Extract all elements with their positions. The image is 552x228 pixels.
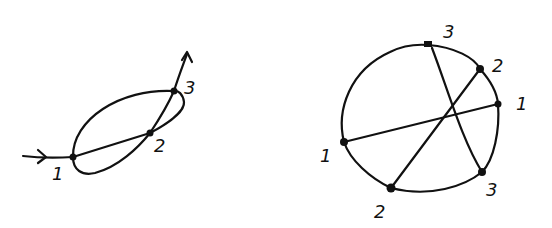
point-left-1 bbox=[340, 138, 348, 146]
point-top-3 bbox=[424, 41, 432, 47]
point-1 bbox=[70, 154, 77, 161]
label-1: 1 bbox=[52, 163, 63, 184]
label-upper-2: 2 bbox=[492, 55, 503, 76]
point-bottom-2 bbox=[387, 184, 396, 193]
label-2: 2 bbox=[154, 135, 165, 156]
label-right-1: 1 bbox=[516, 93, 527, 114]
label-top-3: 3 bbox=[443, 21, 454, 42]
chord-1-2-loop bbox=[73, 91, 184, 157]
point-3 bbox=[171, 88, 178, 95]
chord-1 bbox=[344, 104, 498, 142]
point-bottom-3 bbox=[478, 168, 486, 176]
incoming-path bbox=[23, 156, 73, 158]
circle bbox=[342, 45, 499, 192]
diagram-svg: 1 2 3 3 2 1 1 2 3 bbox=[0, 0, 552, 228]
label-left-1: 1 bbox=[320, 145, 331, 166]
label-bottom-2: 2 bbox=[374, 201, 385, 222]
label-bottom-3: 3 bbox=[486, 179, 497, 200]
right-figure: 3 2 1 1 2 3 bbox=[320, 21, 527, 222]
point-2 bbox=[147, 130, 154, 137]
point-upper-2 bbox=[476, 65, 484, 73]
label-3: 3 bbox=[184, 77, 195, 98]
point-right-1 bbox=[495, 101, 502, 108]
diagram-canvas: 1 2 3 3 2 1 1 2 3 bbox=[0, 0, 552, 228]
chord-2 bbox=[391, 69, 480, 188]
left-figure: 1 2 3 bbox=[23, 52, 195, 184]
